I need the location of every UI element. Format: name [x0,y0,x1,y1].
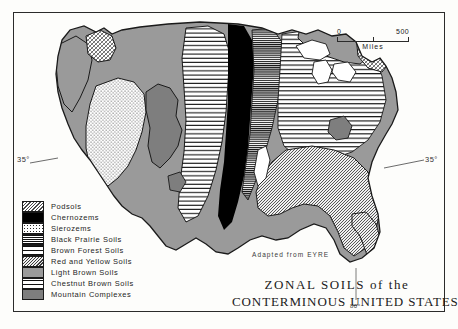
scale-bar-rule [337,36,409,42]
legend-swatch-wide-horizontal-lines [22,245,44,256]
legend-label: Black Prairie Soils [51,235,122,244]
map-page: 0 500 Miles 35° 35° 80° Adapted from EYR… [0,0,458,329]
map-title-line-2: CONTERMINOUS UNITED STATES [232,294,442,310]
scale-min-label: 0 [337,28,341,35]
legend-swatch-fine-diagonal-hatch [22,256,44,267]
legend-label: Podsols [51,202,82,211]
legend-row: Black Prairie Soils [22,234,134,245]
latitude-label-west: 35° [17,155,30,164]
legend-row: Brown Forest Soils [22,245,134,256]
map-title-block: ZONAL SOILS of the CONTERMINOUS UNITED S… [232,277,442,310]
scale-bar: 0 500 Miles [337,28,409,50]
legend-label: Chernozems [51,213,99,222]
legend-swatch-fine-stipple-dots [22,223,44,234]
legend-label: Mountain Complexes [51,290,131,299]
legend-label: Red and Yellow Soils [51,257,132,266]
legend-label: Chestnut Brown Soils [51,279,134,288]
map-title-line-1: ZONAL SOILS of the [232,277,442,293]
legend-row: Light Brown Soils [22,267,134,278]
legend-swatch-solid-dark-grey [22,289,44,300]
legend-swatch-dense-horizontal-lines [22,234,44,245]
legend-row: Red and Yellow Soils [22,256,134,267]
legend-swatch-cross-hatch-grey [22,201,44,212]
legend-row: Sierozems [22,223,134,234]
legend-label: Brown Forest Soils [51,246,124,255]
legend-swatch-solid-black [22,212,44,223]
legend-label: Light Brown Soils [51,268,118,277]
map-legend: PodsolsChernozemsSierozemsBlack Prairie … [22,201,134,300]
legend-swatch-solid-mid-grey [22,267,44,278]
legend-row: Podsols [22,201,134,212]
source-credit: Adapted from EYRE [252,251,329,258]
scale-max-label: 500 [396,28,409,35]
legend-row: Mountain Complexes [22,289,134,300]
legend-row: Chernozems [22,212,134,223]
legend-label: Sierozems [51,224,91,233]
scale-units-label: Miles [337,43,409,50]
latitude-label-east: 35° [425,155,438,164]
legend-row: Chestnut Brown Soils [22,278,134,289]
legend-swatch-sparse-horizontal-lines [22,278,44,289]
